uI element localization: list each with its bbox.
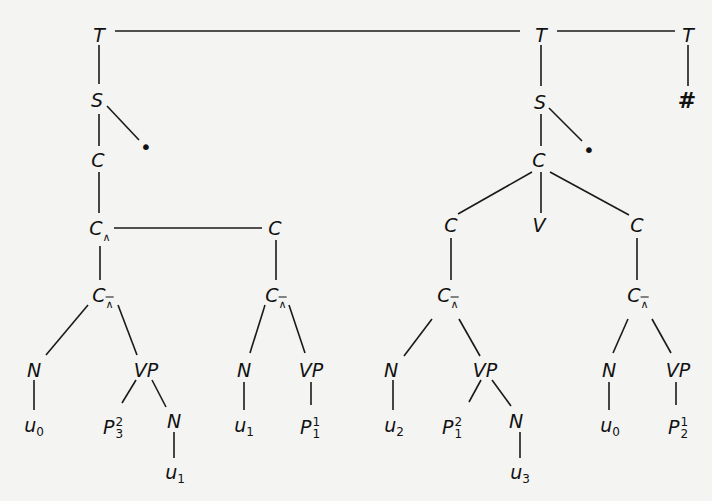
node-N1: N [27, 361, 41, 380]
leaf-P-1-1: P11 [300, 416, 320, 440]
node-C-wedgebar-1: C∧ [92, 286, 113, 305]
node-N3: N [237, 361, 251, 380]
leaf-u3: u3 [510, 463, 530, 486]
node-C-wedgebar-2: C∧ [265, 286, 286, 305]
tree-edge [404, 319, 432, 356]
tree-edge [46, 305, 88, 355]
tree-edge [652, 319, 671, 353]
tree-edge [107, 106, 139, 140]
node-period-2: • [583, 140, 595, 160]
leaf-u0-b: u0 [600, 416, 620, 439]
tree-edge [152, 380, 166, 407]
node-VP1: VP [134, 361, 158, 380]
tree-edge [459, 319, 480, 356]
tree-edge [613, 319, 628, 353]
tree-edge [550, 172, 629, 215]
leaf-u1-a: u1 [165, 463, 185, 486]
tree-edge [492, 380, 511, 406]
node-T2: T [535, 26, 547, 45]
node-N6: N [602, 361, 616, 380]
node-C-wedgebar-4: C∧ [627, 286, 648, 305]
node-N5: N [509, 412, 523, 431]
leaf-P-3-2: P23 [103, 416, 123, 440]
node-N2: N [167, 412, 181, 431]
node-V: V [533, 216, 546, 235]
node-C2: C [268, 219, 281, 238]
leaf-u0-a: u0 [24, 416, 44, 439]
node-T3: T [682, 26, 694, 45]
leaf-u1-b: u1 [234, 416, 254, 439]
tree-edge [469, 380, 481, 402]
node-period-1: • [140, 137, 152, 157]
leaf-P-2-1: P12 [668, 416, 688, 440]
node-VP2: VP [299, 361, 323, 380]
node-C1: C [91, 151, 104, 170]
node-T1: T [93, 26, 105, 45]
node-S2: S [534, 93, 546, 112]
node-S1: S [91, 91, 103, 110]
tree-edge [458, 172, 532, 214]
tree-edge [250, 305, 265, 353]
node-N4: N [384, 361, 398, 380]
tree-edge [549, 108, 582, 141]
node-hash: # [678, 90, 696, 112]
leaf-u2: u2 [384, 416, 404, 439]
node-VP4: VP [666, 361, 690, 380]
node-C-wedgebar-3: C∧ [437, 286, 458, 305]
tree-edge [289, 305, 305, 353]
node-VP3: VP [473, 361, 497, 380]
leaf-P-1-2: P21 [442, 416, 462, 440]
tree-edge [122, 380, 136, 403]
node-C-wedge-1: C∧ [89, 219, 110, 238]
node-C3: C [532, 151, 545, 170]
node-C5: C [630, 216, 643, 235]
tree-edge [118, 305, 137, 355]
node-C4: C [444, 216, 457, 235]
